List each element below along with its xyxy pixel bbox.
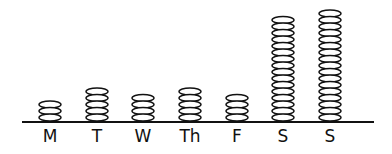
coin-icon — [39, 114, 61, 121]
x-axis-label: T — [91, 126, 103, 146]
x-axis-labels: MTWThFSS — [43, 126, 336, 146]
coin-stacks — [39, 10, 341, 121]
coin-icon — [319, 114, 341, 121]
x-axis-label: Th — [178, 126, 200, 146]
coin-icon — [179, 114, 201, 121]
coin-stack-6 — [319, 10, 341, 121]
coin-stack-3 — [179, 88, 201, 121]
coin-icon — [86, 114, 108, 121]
coin-icon — [132, 114, 154, 121]
coin-stack-5 — [272, 17, 294, 122]
x-axis-label: S — [278, 126, 289, 146]
coin-stack-0 — [39, 101, 61, 121]
coin-stack-2 — [132, 95, 154, 122]
coin-icon — [272, 114, 294, 121]
pictograph-chart: MTWThFSS — [0, 0, 392, 154]
x-axis-label: F — [232, 126, 242, 146]
x-axis-label: M — [43, 126, 58, 146]
coin-stack-4 — [226, 95, 248, 122]
x-axis-label: W — [135, 126, 152, 146]
x-axis-label: S — [325, 126, 336, 146]
coin-icon — [226, 114, 248, 121]
coin-stack-1 — [86, 88, 108, 121]
